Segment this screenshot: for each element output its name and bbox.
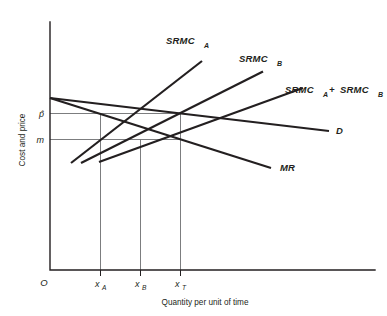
curve-label-srmc-a: SRMC A <box>166 35 209 49</box>
guide-lines <box>50 114 181 271</box>
curve-label-srmc-b: SRMC B <box>239 53 282 67</box>
x-tick-label-x-b: x B <box>134 279 147 291</box>
curve-label-srmc-sum-base2: SRMC <box>340 84 369 95</box>
curve-marginal-revenue <box>50 98 271 168</box>
curve-label-srmc-sum: SRMC A + SRMC B <box>285 84 383 98</box>
y-tick-label-p-hat: p̂ <box>38 109 44 119</box>
origin-label: O <box>40 277 48 288</box>
x-tick-label-x-b-base: x <box>134 279 140 289</box>
curve-label-marginal-revenue: MR <box>280 162 295 173</box>
curve-label-srmc-b-base: SRMC <box>239 53 268 64</box>
curve-label-srmc-a-sub: A <box>203 42 209 49</box>
x-tick-label-x-b-sub-text: B <box>142 284 147 291</box>
curve-label-srmc-sum-base1: SRMC <box>285 84 314 95</box>
x-tick-label-x-b-sub: B <box>142 284 147 291</box>
curve-label-srmc-sum-sub2: B <box>378 91 383 98</box>
curve-demand <box>50 98 329 131</box>
y-axis-title: Cost and price <box>18 113 27 166</box>
axis-frame <box>50 22 375 270</box>
x-tick-label-x-t-sub: T <box>182 284 187 291</box>
economics-diagram-figure: p̂ m O x A x B x T Cost and price Quanti… <box>0 0 387 316</box>
x-axis-title: Quantity per unit of time <box>162 298 249 307</box>
y-tick-label-m: m <box>37 135 45 145</box>
curve-label-srmc-sum-sub1-text: A <box>322 91 328 98</box>
curve-label-demand: D <box>336 125 343 136</box>
curve-label-srmc-b-sub: B <box>277 60 282 67</box>
x-tick-label-x-a-sub: A <box>101 284 107 291</box>
x-tick-label-x-t: x T <box>174 279 187 291</box>
curve-label-srmc-sum-sub1: A <box>322 91 328 98</box>
curves <box>50 61 329 168</box>
curve-label-srmc-sum-joiner: + <box>329 84 335 95</box>
x-tick-label-x-a-sub-text: A <box>101 284 107 291</box>
chart-canvas: p̂ m O x A x B x T Cost and price Quanti… <box>0 0 387 316</box>
curve-label-srmc-sum-sub2-text: B <box>378 91 383 98</box>
x-tick-label-x-t-sub-text: T <box>182 284 187 291</box>
curve-label-srmc-a-base: SRMC <box>166 35 195 46</box>
curve-label-srmc-a-sub-text: A <box>203 42 209 49</box>
x-tick-label-x-t-base: x <box>174 279 180 289</box>
x-tick-label-x-a-base: x <box>94 279 100 289</box>
x-tick-label-x-a: x A <box>94 279 107 291</box>
curve-label-srmc-b-sub-text: B <box>277 60 282 67</box>
